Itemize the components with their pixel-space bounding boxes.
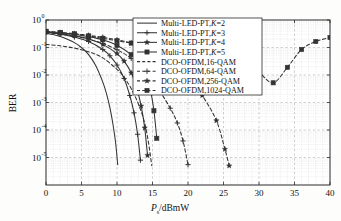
svg-text:-1: -1: [42, 41, 47, 47]
svg-text:BER: BER: [8, 93, 18, 112]
svg-text:10: 10: [32, 43, 42, 53]
x-tick-label: 20: [184, 188, 194, 198]
legend-label: DCO-OFDM,1024-QAM: [161, 86, 244, 95]
svg-text:-2: -2: [42, 68, 47, 74]
legend-label: Multi-LED-PT,K=4: [161, 38, 225, 47]
x-tick-label: 10: [113, 188, 123, 198]
svg-text:-5: -5: [42, 151, 47, 157]
svg-text:10: 10: [32, 98, 42, 108]
x-tick-label: 40: [326, 188, 336, 198]
y-axis-title: BER: [8, 93, 18, 112]
ber-vs-power-chart: 0510152025303540 10010-110-210-310-410-5…: [0, 0, 341, 221]
svg-text:10: 10: [32, 70, 42, 80]
legend-label: DCO-OFDM,64-QAM: [161, 67, 236, 76]
legend-label: Multi-LED-PT,K=5: [161, 48, 225, 57]
svg-text:10: 10: [32, 125, 42, 135]
x-tick-label: 25: [219, 188, 229, 198]
x-tick-label: 0: [44, 188, 49, 198]
figure-container: 0510152025303540 10010-110-210-310-410-5…: [0, 0, 341, 221]
x-axis-title: Ps/dBmW: [150, 203, 189, 215]
legend-label: DCO-OFDM,16-QAM: [161, 58, 236, 67]
x-tick-label: 15: [148, 188, 158, 198]
x-tick-label: 35: [290, 188, 300, 198]
svg-text:-3: -3: [42, 96, 47, 102]
svg-text:-4: -4: [42, 123, 47, 129]
svg-text:10: 10: [32, 153, 42, 163]
x-tick-label: 30: [255, 188, 265, 198]
x-tick-label: 5: [79, 188, 84, 198]
legend-label: Multi-LED-PT,K=3: [161, 29, 225, 38]
svg-text:0: 0: [42, 13, 45, 19]
legend-label: DCO-OFDM,256-QAM: [161, 77, 240, 86]
legend-label: Multi-LED-PT,K=2: [161, 19, 225, 28]
chart-legend: Multi-LED-PT,K=2Multi-LED-PT,K=3Multi-LE…: [133, 18, 262, 95]
svg-text:10: 10: [32, 15, 42, 25]
svg-text:Ps/dBmW: Ps/dBmW: [150, 203, 189, 215]
